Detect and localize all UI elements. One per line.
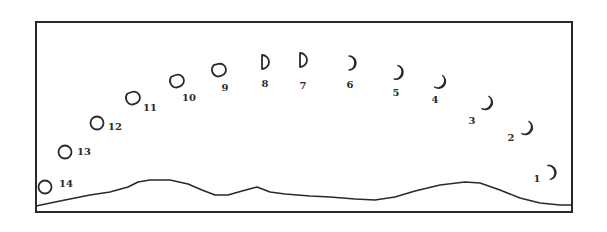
frame-border [36,22,572,212]
moon-phase-1-icon [548,164,557,179]
moon-label-11: 11 [143,103,157,113]
moon-label-9: 9 [222,83,229,93]
moon-phase-5-icon [394,65,404,80]
moon-phase-9-icon [211,62,228,77]
moon-label-2: 2 [508,133,515,143]
horizon-landscape-line [36,180,572,206]
moon-phase-10-icon [168,73,185,89]
diagram-canvas [0,0,607,232]
moon-label-3: 3 [469,116,476,126]
moon-phase-2-icon [522,121,535,137]
moon-phase-12-icon [91,117,104,130]
moon-phase-11-icon [124,90,141,106]
moon-label-12: 12 [108,122,122,132]
moon-label-6: 6 [347,80,354,90]
moon-label-8: 8 [262,79,269,89]
moon-label-10: 10 [182,93,196,103]
moon-phase-8-icon [262,55,269,69]
moon-label-14: 14 [59,179,73,189]
moon-phase-diagram: 1234567891011121314 [0,0,607,232]
moon-phase-14-icon [39,181,52,194]
moon-phase-7-icon [300,53,307,67]
moon-label-13: 13 [77,147,91,157]
moon-label-5: 5 [393,88,400,98]
moon-phase-13-icon [59,146,72,159]
moon-label-1: 1 [534,174,541,184]
moon-phase-4-icon [435,76,449,91]
moon-phase-3-icon [482,96,495,112]
moon-label-4: 4 [432,95,439,105]
moon-label-7: 7 [300,81,307,91]
moon-phase-6-icon [349,56,356,70]
